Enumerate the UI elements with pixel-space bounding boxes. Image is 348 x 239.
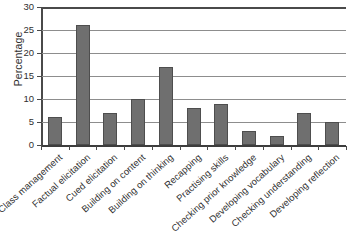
- x-tick-mark: [291, 146, 292, 150]
- x-tick-mark: [152, 146, 153, 150]
- gridline: [41, 145, 346, 147]
- y-tick-label: 30: [0, 2, 34, 12]
- y-tick-label: 0: [0, 140, 34, 150]
- bar: [187, 108, 201, 145]
- bar: [242, 131, 256, 145]
- x-tick-mark: [41, 146, 42, 150]
- y-tick-label: 5: [0, 117, 34, 127]
- y-tick-label: 25: [0, 25, 34, 35]
- bar: [48, 117, 62, 145]
- y-tick-label: 10: [0, 94, 34, 104]
- x-tick-mark: [207, 146, 208, 150]
- y-tick-mark: [37, 122, 42, 123]
- x-tick-mark: [124, 146, 125, 150]
- bar: [131, 99, 145, 145]
- bar: [103, 113, 117, 145]
- x-tick-mark: [235, 146, 236, 150]
- y-tick-mark: [37, 53, 42, 54]
- bar: [76, 25, 90, 145]
- bar: [159, 67, 173, 145]
- bar: [270, 136, 284, 145]
- bar: [214, 104, 228, 145]
- x-tick-mark: [69, 146, 70, 150]
- y-tick-mark: [37, 76, 42, 77]
- bar: [325, 122, 339, 145]
- y-tick-mark: [37, 7, 42, 8]
- y-tick-label: 20: [0, 48, 34, 58]
- x-tick-mark: [318, 146, 319, 150]
- bar: [297, 113, 311, 145]
- y-tick-mark: [37, 30, 42, 31]
- y-tick-label: 15: [0, 71, 34, 81]
- x-tick-mark: [180, 146, 181, 150]
- x-tick-mark: [96, 146, 97, 150]
- y-tick-mark: [37, 99, 42, 100]
- bar-chart: Percentage 051015202530Class managementF…: [0, 0, 348, 239]
- plot-area: [41, 7, 346, 145]
- x-tick-mark: [346, 146, 347, 150]
- gridline: [41, 7, 346, 9]
- x-tick-mark: [263, 146, 264, 150]
